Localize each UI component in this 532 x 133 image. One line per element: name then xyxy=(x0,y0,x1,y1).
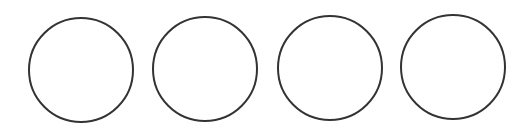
circle-4 xyxy=(401,15,505,119)
circle-2 xyxy=(153,17,257,121)
circles-diagram xyxy=(0,0,532,133)
circle-1 xyxy=(29,18,133,122)
diagram-canvas xyxy=(0,0,532,133)
circle-3 xyxy=(278,16,382,120)
